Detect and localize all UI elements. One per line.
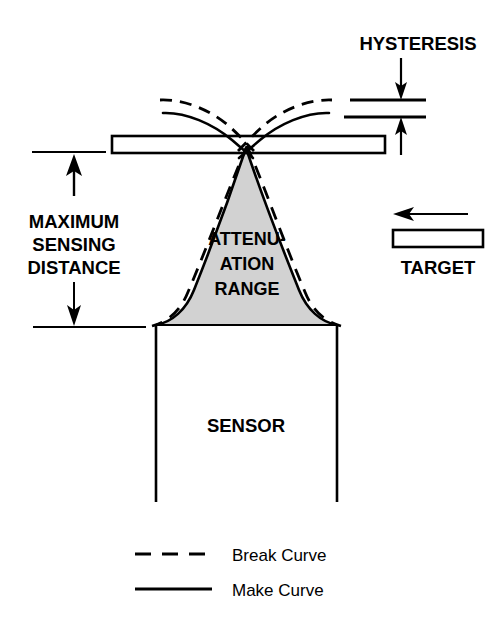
legend: Break Curve Make Curve bbox=[135, 546, 326, 600]
hysteresis-label: HYSTERESIS bbox=[359, 33, 476, 54]
sensor-label: SENSOR bbox=[207, 415, 285, 436]
legend-label-make-curve: Make Curve bbox=[232, 581, 324, 600]
attenuation-range-line-2: ATION bbox=[220, 254, 275, 274]
target-motion-arrow bbox=[393, 207, 468, 221]
break-curve-right bbox=[238, 100, 332, 151]
hysteresis-arrow-up bbox=[395, 117, 407, 155]
legend-label-break-curve: Break Curve bbox=[232, 546, 326, 565]
attenuation-range-line-1: ATTENU- bbox=[208, 229, 286, 249]
break-curve-left bbox=[160, 100, 254, 151]
target-label: TARGET bbox=[401, 257, 476, 278]
sensor-body bbox=[156, 325, 337, 502]
attenuation-range-line-3: RANGE bbox=[214, 279, 279, 299]
legend-item-break-curve: Break Curve bbox=[135, 546, 326, 565]
legend-item-make-curve: Make Curve bbox=[135, 581, 324, 600]
diagram-canvas: SENSOR HYSTERESIS bbox=[0, 0, 503, 627]
sensor-diagram: SENSOR HYSTERESIS bbox=[0, 0, 503, 627]
max-sensing-distance-line-3: DISTANCE bbox=[27, 257, 120, 278]
max-sensing-arrow-up bbox=[66, 154, 82, 196]
target-block bbox=[393, 230, 483, 247]
max-sensing-arrow-down bbox=[67, 282, 81, 326]
max-sensing-distance-line-1: MAXIMUM bbox=[29, 211, 119, 232]
max-sensing-distance-line-2: SENSING bbox=[32, 234, 115, 255]
hysteresis-arrow-down bbox=[395, 58, 407, 100]
